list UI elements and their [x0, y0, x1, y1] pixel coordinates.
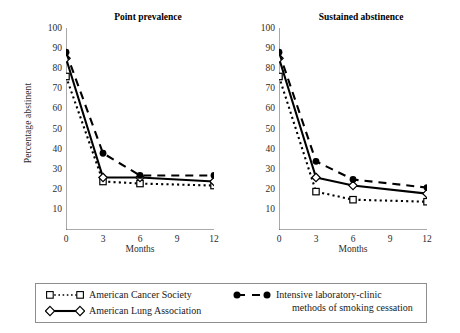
data-point-marker [66, 73, 69, 79]
y-tick-label: 70 [253, 84, 275, 94]
data-point-marker [137, 172, 144, 179]
data-point-marker [350, 197, 356, 203]
plot-svg [279, 28, 427, 230]
series-line [66, 58, 214, 181]
y-tick-label: 10 [253, 205, 275, 215]
series-line [279, 52, 427, 187]
x-tick-label: 0 [269, 234, 289, 244]
data-point-marker [66, 49, 69, 56]
series-line [279, 58, 427, 193]
data-point-marker [100, 150, 107, 157]
x-tick-label: 12 [417, 234, 437, 244]
legend-item-american-cancer-society: American Cancer Society [45, 287, 235, 303]
x-tick-label: 12 [204, 234, 224, 244]
x-tick-label: 0 [56, 234, 76, 244]
legend-label: American Cancer Society [89, 288, 192, 301]
x-tick-label: 6 [130, 234, 150, 244]
y-axis-tick-labels: 102030405060708090100 [243, 28, 275, 230]
y-tick-label: 100 [253, 24, 275, 34]
y-tick-label: 90 [40, 44, 62, 54]
panel-point-prevalence: Point prevalence 102030405060708090100 0… [30, 12, 230, 262]
x-tick-label: 9 [167, 234, 187, 244]
y-tick-label: 70 [40, 84, 62, 94]
x-axis-tick-labels: 036912 [66, 230, 214, 244]
figure-smoking-cessation-abstinence: Percentage abstinent Point prevalence 10… [0, 0, 460, 333]
y-tick-label: 60 [253, 104, 275, 114]
series-line [66, 52, 214, 175]
x-tick-label: 6 [343, 234, 363, 244]
y-tick-label: 20 [40, 185, 62, 195]
open-square-dotted-marker-icon [45, 287, 85, 303]
legend-column-right: Intensive laboratory-clinic methods of s… [232, 287, 422, 303]
y-tick-label: 60 [40, 104, 62, 114]
y-tick-label: 10 [40, 205, 62, 215]
y-tick-label: 30 [40, 165, 62, 175]
x-tick-label: 3 [93, 234, 113, 244]
y-tick-label: 100 [40, 24, 62, 34]
data-point-marker [279, 49, 282, 56]
legend-label-line2: methods of smoking cessation [292, 301, 413, 314]
legend-column-left: American Cancer Society American Lung As… [45, 287, 235, 319]
y-tick-label: 90 [253, 44, 275, 54]
data-point-marker [424, 184, 427, 191]
legend-item-american-lung-association: American Lung Association [45, 303, 235, 319]
x-tick-label: 9 [380, 234, 400, 244]
x-axis-title: Months [279, 244, 427, 254]
y-tick-label: 80 [40, 64, 62, 74]
y-tick-label: 20 [253, 185, 275, 195]
legend-label: Intensive laboratory-clinic [276, 288, 382, 301]
data-point-marker [279, 73, 282, 79]
y-tick-label: 40 [253, 145, 275, 155]
plot-svg [66, 28, 214, 230]
data-point-marker [312, 173, 320, 181]
legend-label: American Lung Association [89, 304, 201, 317]
y-tick-label: 30 [253, 165, 275, 175]
panel-title: Sustained abstinence [279, 12, 443, 22]
plot-area [279, 28, 427, 230]
chart-legend: American Cancer Society American Lung As… [35, 283, 427, 323]
data-point-marker [313, 158, 320, 165]
open-diamond-solid-marker-icon [45, 303, 85, 319]
data-point-marker [424, 199, 427, 205]
x-axis-tick-labels: 036912 [279, 230, 427, 244]
x-axis-title: Months [66, 244, 214, 254]
y-tick-label: 40 [40, 145, 62, 155]
panel-title: Point prevalence [66, 12, 230, 22]
data-point-marker [211, 172, 214, 179]
panel-sustained-abstinence: Sustained abstinence 1020304050607080901… [243, 12, 443, 262]
legend-item-intensive-laboratory-clinic: Intensive laboratory-clinic methods of s… [232, 287, 422, 303]
y-axis-tick-labels: 102030405060708090100 [30, 28, 62, 230]
plot-area [66, 28, 214, 230]
filled-circle-dashed-marker-icon [232, 287, 272, 303]
y-tick-label: 50 [253, 125, 275, 135]
data-point-marker [350, 176, 357, 183]
y-tick-label: 80 [253, 64, 275, 74]
y-tick-label: 50 [40, 125, 62, 135]
x-tick-label: 3 [306, 234, 326, 244]
data-point-marker [313, 188, 319, 194]
